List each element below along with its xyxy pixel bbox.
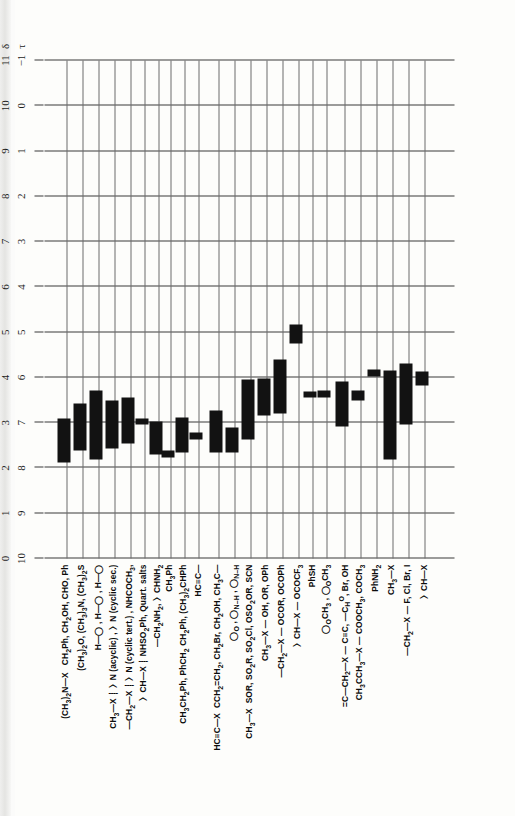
row-label-row-me2o: (CH3)2O, (CH3)3N, (CH3)2S (77, 564, 88, 670)
row-label-row-me2n-x: (CH3)2N—X CH2Ph, CH2OH, CHO, Ph (61, 564, 72, 718)
tickmark-5 (34, 331, 43, 332)
row-label-row-ch2-x-ocor: —CH2—X — OCOR, OCOPh (277, 564, 288, 677)
tickmark-9 (34, 150, 43, 151)
tickmark-4 (34, 376, 43, 377)
tickmark-7 (34, 240, 43, 241)
row-label-row-ch3ph: CH3Ph (165, 564, 176, 591)
row-label-row-vinyl-ch2x: =C—CH2—X — C≡C, —CHO, Br, OH (337, 564, 350, 706)
row-label-row-ch3cch3: CH3CCH3—X — COOCH3, COCH3 (355, 564, 366, 700)
row-label-row-ch3-x-sor: CH3—X SOR, SO2R, SO2Cl, OSO2OR, SCN (245, 564, 256, 738)
rotated-chart-container: 109876543210−1τ 01234567891011δ (CH3)2N—… (0, 0, 515, 816)
row-label-row-phsh: PhSH (308, 564, 316, 587)
row-label-row-ch-x-ococf3: 〉CH—X — OCOCF3 (293, 564, 304, 647)
row-label-row-ch3-x-oh: CH3—X — OH, OR, OPh (261, 564, 272, 661)
nmr-chemical-shift-chart: 109876543210−1τ 01234567891011δ (CH3)2N—… (0, 0, 515, 816)
tickmark-6 (34, 285, 43, 286)
tickmark-10 (34, 104, 43, 105)
scanned-page: 109876543210−1τ 01234567891011δ (CH3)2N—… (0, 0, 515, 816)
row-label-row-ch3-x-hal: CH3—X (387, 564, 398, 594)
row-label-row-ch2-x-n: —CH2—X ┊ 〉N (cyclic tert.) , NHCOCH3, (125, 564, 136, 729)
row-label-row-alkyne: HC≡C— (194, 564, 202, 596)
row-label-row-ch2-x-hal: —CH2—X — F, Cl, Br, I (403, 564, 414, 655)
row-label-row-ch-x-hal: 〉CH—X (420, 564, 428, 599)
row-label-row-alkyne-x: HC≡C—X CCH2=CH2, CH2Br, CH2OH, CH3C— (213, 564, 224, 750)
row-label-row-ch2nh2: —CH2NH2, 〉CHNH2 (153, 564, 164, 647)
tickmark-3 (34, 421, 43, 422)
row-label-row-phnh2: PhNH2 (371, 564, 382, 591)
row-label-column: (CH3)2N—X CH2Ph, CH2OH, CHO, Ph(CH3)2O, … (0, 0, 515, 816)
tickmark-11 (34, 59, 43, 60)
row-label-row-och: ◯OCH3 , ◯OCH3 (321, 564, 332, 633)
tickmark-0 (34, 557, 43, 558)
tickmark-8 (34, 195, 43, 196)
row-label-row-ch3ch2ph: CH3CH2Ph, PhCH2 CH2Ph, (CH3)2CHPh (179, 564, 190, 723)
tickmark-2 (34, 466, 43, 467)
row-label-row-bicyclic-h: H—◯ , H—◯ , H—◯ (94, 564, 102, 650)
tickmark-1 (34, 512, 43, 513)
row-label-row-ch3-x-n: CH3—X ┊ 〉N (acyclic) , 〉N (cyclic sec.) (109, 564, 120, 728)
row-label-row-ring-acetal: ◯O , ◯N–H , ◯N–H (229, 564, 240, 640)
row-label-row-ch-x-n: 〉CH—X ┊ NHSO2Ph, Quart. salts (139, 564, 150, 700)
